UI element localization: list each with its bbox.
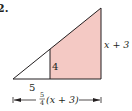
arrow-right-icon	[93, 98, 100, 102]
small-base-label: 5	[29, 82, 35, 93]
large-base-expression: (x + 3)	[46, 94, 79, 105]
small-height-label: 4	[52, 61, 58, 72]
similar-triangles-figure: 2. 4 5 x + 3 5 4 (x + 3)	[0, 0, 132, 111]
arrow-left-icon	[14, 98, 21, 102]
large-height-label: x + 3	[104, 39, 129, 50]
problem-number: 2.	[0, 2, 8, 15]
fraction-denominator: 4	[40, 99, 44, 107]
fraction-numerator: 5	[40, 91, 44, 99]
